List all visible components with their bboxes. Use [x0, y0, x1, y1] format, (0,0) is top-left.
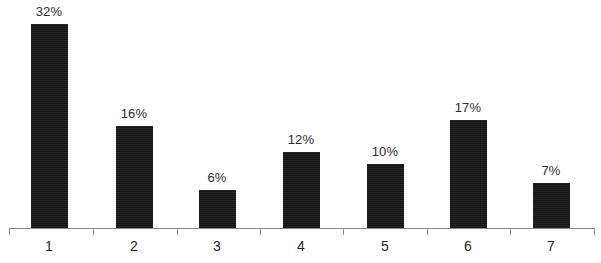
x-axis-category-label: 7 — [521, 238, 581, 254]
x-axis-tick — [343, 229, 344, 235]
plot-area: 32% 16% 6% 12% 10% 17% 7% 1 2 3 4 5 6 7 — [0, 0, 601, 263]
bar-value-label: 6% — [187, 170, 247, 185]
x-axis-line — [9, 228, 595, 229]
x-axis-category-label: 3 — [187, 238, 247, 254]
bar — [450, 120, 487, 228]
bar — [116, 126, 153, 228]
bar-value-label: 17% — [438, 100, 498, 115]
bar-value-label: 16% — [104, 106, 164, 121]
bar — [199, 190, 236, 228]
x-axis-category-label: 1 — [19, 238, 79, 254]
bar — [283, 152, 320, 228]
x-axis-tick — [93, 229, 94, 235]
bar — [533, 183, 570, 228]
bar — [367, 164, 404, 228]
bar-value-label: 32% — [19, 4, 79, 19]
x-axis-category-label: 4 — [271, 238, 331, 254]
x-axis-tick — [260, 229, 261, 235]
x-axis-category-label: 2 — [104, 238, 164, 254]
x-axis-tick — [510, 229, 511, 235]
x-axis-end-tick — [594, 229, 595, 235]
bar — [31, 24, 68, 228]
bar-chart: 32% 16% 6% 12% 10% 17% 7% 1 2 3 4 5 6 7 — [0, 0, 601, 263]
x-axis-category-label: 5 — [355, 238, 415, 254]
bar-value-label: 12% — [271, 132, 331, 147]
x-axis-start-tick — [9, 229, 10, 235]
x-axis-tick — [177, 229, 178, 235]
bar-value-label: 10% — [355, 144, 415, 159]
x-axis-category-label: 6 — [438, 238, 498, 254]
bar-value-label: 7% — [521, 163, 581, 178]
x-axis-tick — [427, 229, 428, 235]
